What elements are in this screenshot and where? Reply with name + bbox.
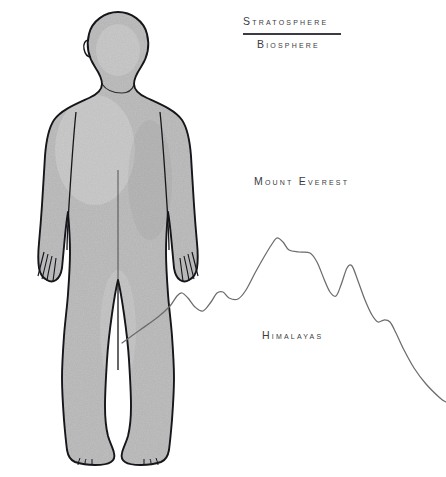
label-stratosphere: Stratosphere bbox=[243, 15, 328, 27]
label-himalayas: Himalayas bbox=[262, 329, 323, 341]
illustration-canvas bbox=[0, 0, 446, 477]
label-mount-everest: Mount Everest bbox=[254, 175, 349, 187]
label-mount-everest-text: Mount Everest bbox=[254, 175, 349, 187]
label-himalayas-text: Himalayas bbox=[262, 329, 323, 341]
figure-texture bbox=[30, 5, 210, 475]
label-biosphere: Biosphere bbox=[257, 38, 320, 50]
label-stratosphere-text: Stratosphere bbox=[243, 15, 328, 27]
stratosphere-biosphere-divider bbox=[243, 33, 341, 35]
label-biosphere-text: Biosphere bbox=[257, 38, 320, 50]
human-figure-silhouette bbox=[30, 5, 210, 475]
scale-comparison-diagram: Stratosphere Biosphere Mount Everest Him… bbox=[0, 0, 446, 477]
